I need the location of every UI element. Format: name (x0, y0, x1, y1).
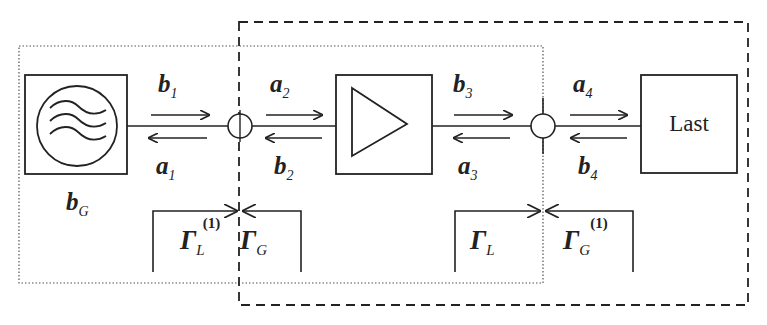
junction-2 (531, 98, 555, 154)
label-gammaL1: ΓL(1) (179, 215, 220, 258)
label-b2: b2 (274, 152, 294, 183)
label-b3: b3 (453, 70, 473, 101)
junction-1 (228, 110, 252, 142)
amplifier-block (336, 75, 432, 174)
two-port-cascade-diagram: Last b1 a1 bG a2 b2 b3 a3 a4 b4 ΓL(1) ΓG… (0, 0, 767, 325)
label-a2: a2 (270, 70, 290, 101)
label-bG: bG (66, 188, 89, 219)
label-a4: a4 (573, 70, 593, 101)
label-a1: a1 (156, 152, 176, 183)
load-block: Last (641, 75, 737, 173)
load-label: Last (669, 111, 709, 136)
bracket-gammaL (455, 211, 541, 272)
label-b1: b1 (158, 70, 178, 101)
label-gammaG1: ΓG(1) (562, 215, 608, 258)
generator-block (25, 75, 127, 174)
label-gammaG: ΓG (239, 225, 267, 258)
label-b4: b4 (578, 152, 598, 183)
label-gammaL: ΓL (469, 225, 495, 258)
label-a3: a3 (458, 152, 478, 183)
